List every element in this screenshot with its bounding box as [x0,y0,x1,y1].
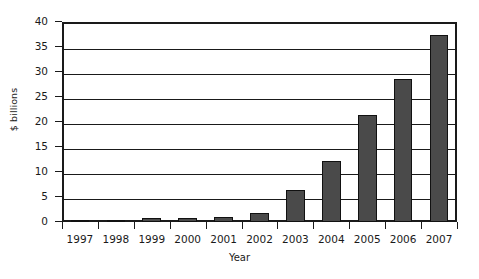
x-axis-tick-mark [170,222,171,229]
x-axis-tick-label: 2007 [416,233,462,245]
y-axis-tick-mark [55,71,62,72]
x-axis-tick-mark [313,222,314,229]
x-axis-title: Year [0,252,479,263]
y-axis-tick-mark [55,146,62,147]
x-axis-tick-labels: 1997199819992000200120022003200420052006… [62,233,457,249]
y-axis-tick-label: 10 [35,165,48,177]
x-axis-tick-mark [62,222,63,229]
y-axis-tick-label: 30 [35,65,48,77]
x-axis-tick-mark [206,222,207,229]
y-axis-tick-mark [55,221,62,222]
y-axis-tick-label: 35 [35,40,48,52]
x-axis-tick-mark [349,222,350,229]
y-axis-tick-mark [55,196,62,197]
y-axis-tick-label: 5 [41,190,48,202]
y-axis-tick-mark [55,96,62,97]
x-axis-tick-marks [62,222,457,230]
x-axis-tick-mark [242,222,243,229]
x-axis-tick-mark [134,222,135,229]
y-axis-tick-label: 40 [35,15,48,27]
x-axis-tick-mark [277,222,278,229]
y-axis-tick-label: 25 [35,90,48,102]
y-axis-tick-label: 15 [35,140,48,152]
bar-chart: $ billions 0510152025303540 199719981999… [0,0,479,279]
y-axis-tick-mark [55,121,62,122]
y-axis-tick-mark [55,21,62,22]
y-axis-tick-label: 20 [35,115,48,127]
x-axis-tick-mark [421,222,422,229]
y-axis-tick-mark [55,46,62,47]
y-axis-tick-mark [55,171,62,172]
x-axis-tick-mark [98,222,99,229]
y-axis-tick-label: 0 [41,215,48,227]
x-axis-tick-mark [385,222,386,229]
x-axis-tick-mark [457,222,458,229]
